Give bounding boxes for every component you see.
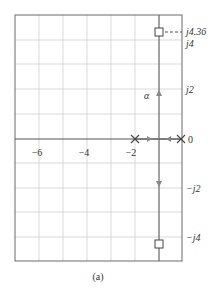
y-tick-label: −j2 [186,183,201,194]
grid-lines [15,15,182,261]
root-locus-plot: −6 −4 −2 0 j4.36 j4 j2 −j2 −j4 α (a) [0,0,217,289]
endpoint-square-icon [155,28,163,36]
y-tick-label: −j4 [186,232,201,243]
alpha-label: α [144,90,150,101]
y-tick-label: j4.36 [184,26,206,37]
plot-frame [15,15,182,261]
arrow-up-icon [156,90,162,96]
arrow-left-icon [166,136,171,142]
arrow-down-icon [156,181,162,187]
x-tick-label: −2 [126,147,137,158]
endpoint-square-icon [155,240,163,248]
arrow-right-icon [147,136,152,142]
y-tick-label: j2 [184,84,194,95]
y-tick-label: 0 [188,134,193,145]
y-tick-label: j4 [184,38,194,49]
figure-caption: (a) [92,271,103,283]
x-tick-label: −6 [32,147,43,158]
x-tick-label: −4 [79,147,90,158]
